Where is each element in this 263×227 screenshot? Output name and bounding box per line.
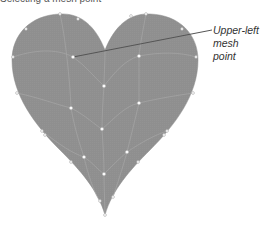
anchor-point[interactable]	[130, 15, 133, 18]
anchor-point[interactable]	[77, 18, 80, 21]
anchor-point[interactable]	[137, 161, 140, 164]
anchor-point[interactable]	[192, 92, 195, 95]
anchor-point[interactable]	[181, 28, 184, 31]
anchor-point[interactable]	[104, 214, 107, 217]
anchor-point[interactable]	[166, 130, 169, 133]
anchor-point[interactable]	[99, 200, 102, 203]
mesh-point[interactable]	[102, 172, 105, 175]
mesh-point[interactable]	[137, 54, 140, 57]
anchor-point[interactable]	[12, 56, 15, 59]
mesh-point[interactable]	[71, 55, 74, 58]
anchor-point[interactable]	[16, 92, 19, 95]
anchor-point[interactable]	[145, 13, 148, 16]
heart-shape[interactable]	[12, 14, 198, 215]
anchor-point[interactable]	[195, 56, 198, 59]
mesh-point[interactable]	[69, 106, 72, 109]
anchor-point[interactable]	[44, 134, 47, 137]
mesh-point[interactable]	[102, 84, 105, 87]
callout-label: Upper-left mesh point	[213, 24, 263, 63]
anchor-point[interactable]	[41, 130, 44, 133]
callout-line-1: Upper-left	[213, 24, 263, 37]
anchor-point[interactable]	[163, 134, 166, 137]
anchor-point[interactable]	[112, 196, 115, 199]
callout-line-2: mesh point	[213, 37, 263, 63]
mesh-point[interactable]	[137, 101, 140, 104]
anchor-point[interactable]	[70, 161, 73, 164]
mesh-point[interactable]	[100, 127, 103, 130]
anchor-point[interactable]	[59, 13, 62, 16]
mesh-point[interactable]	[82, 155, 85, 158]
anchor-point[interactable]	[25, 28, 28, 31]
mesh-point[interactable]	[125, 150, 128, 153]
